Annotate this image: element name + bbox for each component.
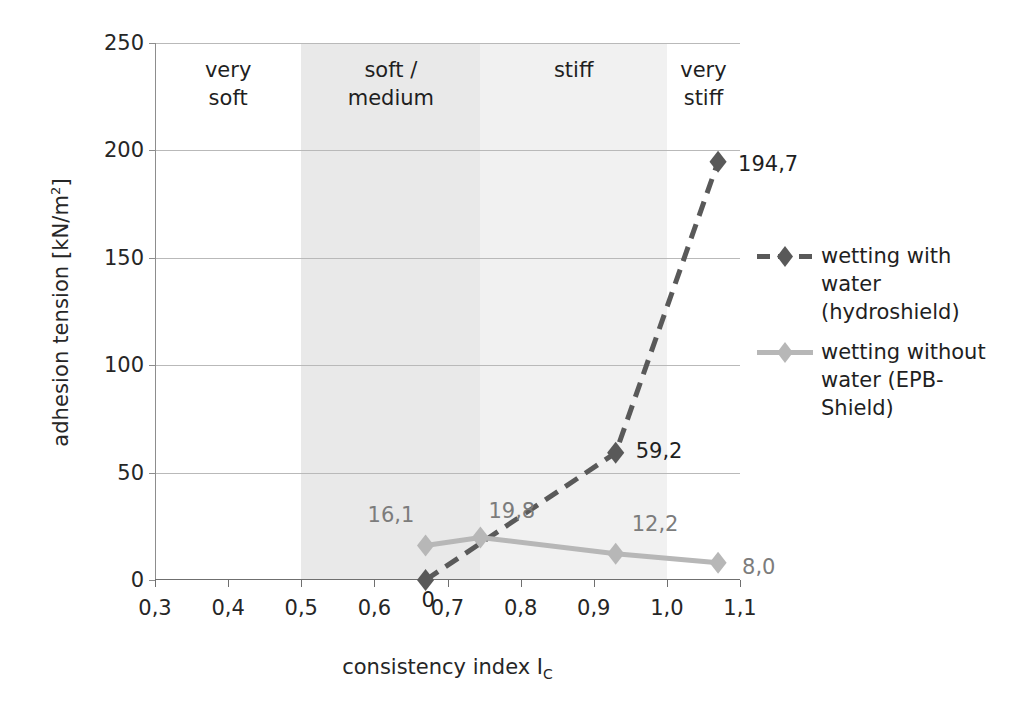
data-point-marker — [709, 552, 726, 574]
x-tick-mark — [594, 580, 595, 587]
x-tick-mark — [228, 580, 229, 587]
y-axis-title-text: adhesion tension [kN/m — [49, 195, 73, 447]
y-axis-title: adhesion tension [kN/m2] — [48, 133, 73, 493]
x-axis-title-subscript: C — [543, 666, 553, 682]
x-tick-mark — [521, 580, 522, 587]
y-tick-label: 0 — [131, 568, 144, 592]
legend: wetting with water (hydroshield)wetting … — [757, 243, 1007, 435]
y-axis-title-tail: ] — [49, 178, 73, 186]
data-label: 12,2 — [632, 512, 679, 536]
data-label: 0 — [422, 588, 435, 612]
y-tick-label: 250 — [104, 31, 144, 55]
x-tick-label: 0,5 — [285, 596, 318, 620]
x-tick-mark — [374, 580, 375, 587]
data-label: 194,7 — [738, 152, 798, 176]
data-point-marker — [607, 442, 624, 464]
legend-item[interactable]: wetting with water (hydroshield) — [757, 243, 1007, 327]
data-label: 8,0 — [742, 555, 775, 579]
x-tick-label: 0,6 — [358, 596, 391, 620]
data-label: 19,8 — [488, 499, 535, 523]
plot-area: verysoftsoft /mediumstiffverystiff 05010… — [155, 43, 740, 580]
x-axis-title-text: consistency index I — [342, 655, 543, 679]
y-axis-title-superscript: 2 — [48, 187, 63, 195]
x-tick-label: 1,0 — [650, 596, 683, 620]
data-point-marker — [417, 534, 434, 556]
x-tick-label: 1,1 — [723, 596, 756, 620]
data-point-marker — [607, 543, 624, 565]
x-axis-title: consistency index IC — [155, 655, 740, 682]
x-tick-mark — [667, 580, 668, 587]
y-tick-label: 150 — [104, 246, 144, 270]
series-layer — [155, 43, 740, 580]
x-tick-label: 0,3 — [138, 596, 171, 620]
y-tick-label: 200 — [104, 138, 144, 162]
legend-marker-icon — [757, 339, 813, 366]
legend-label: wetting without water (EPB-Shield) — [821, 339, 1007, 423]
x-tick-mark — [301, 580, 302, 587]
x-tick-label: 0,9 — [577, 596, 610, 620]
legend-item[interactable]: wetting without water (EPB-Shield) — [757, 339, 1007, 423]
y-tick-label: 100 — [104, 353, 144, 377]
data-point-marker — [709, 151, 726, 173]
series-2 — [417, 526, 727, 573]
x-tick-mark — [740, 580, 741, 587]
series-1 — [417, 151, 727, 591]
chart-figure: adhesion tension [kN/m2] consistency ind… — [0, 0, 1013, 714]
x-tick-mark — [448, 580, 449, 587]
x-tick-label: 0,8 — [504, 596, 537, 620]
data-label: 16,1 — [368, 503, 415, 527]
data-label: 59,2 — [636, 439, 683, 463]
legend-marker-icon — [757, 243, 813, 270]
x-tick-label: 0,7 — [431, 596, 464, 620]
legend-label: wetting with water (hydroshield) — [821, 243, 1007, 327]
x-tick-label: 0,4 — [211, 596, 244, 620]
y-tick-label: 50 — [117, 461, 144, 485]
x-tick-mark — [155, 580, 156, 587]
